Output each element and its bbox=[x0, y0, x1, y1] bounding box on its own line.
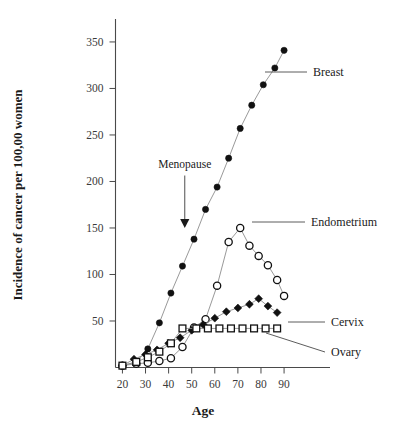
marker-ovary-46 bbox=[179, 325, 186, 332]
marker-breast-86 bbox=[272, 65, 278, 71]
marker-ovary-52 bbox=[193, 325, 200, 332]
leader-line-ovary bbox=[266, 333, 325, 352]
marker-endometrium-87 bbox=[274, 276, 281, 283]
marker-ovary-26 bbox=[133, 359, 140, 366]
marker-ovary-31 bbox=[144, 354, 151, 361]
annotation-arrow-head bbox=[180, 219, 189, 228]
marker-breast-76 bbox=[249, 102, 255, 108]
marker-breast-66 bbox=[226, 155, 232, 161]
marker-ovary-62 bbox=[216, 325, 223, 332]
marker-breast-46 bbox=[179, 263, 185, 269]
y-tick-label-350: 350 bbox=[86, 36, 104, 48]
y-tick-label-100: 100 bbox=[86, 268, 104, 280]
y-axis: 50100150200250300350 bbox=[86, 19, 115, 368]
series-label-endometrium: Endometrium bbox=[311, 215, 378, 229]
x-axis-title: Age bbox=[192, 403, 215, 418]
marker-ovary-67 bbox=[228, 325, 235, 332]
y-tick-label-150: 150 bbox=[86, 222, 104, 234]
marker-ovary-41 bbox=[168, 340, 175, 347]
marker-ovary-20 bbox=[119, 362, 126, 369]
marker-ovary-82 bbox=[262, 325, 269, 332]
x-tick-label-30: 30 bbox=[140, 378, 152, 390]
marker-ovary-57 bbox=[204, 325, 211, 332]
marker-endometrium-61 bbox=[214, 282, 221, 289]
y-axis-title: Incidence of cancer per 100,00 women bbox=[10, 89, 25, 301]
marker-cervix-87 bbox=[273, 309, 281, 317]
marker-cervix-70 bbox=[234, 304, 242, 312]
marker-ovary-36 bbox=[156, 348, 163, 355]
marker-endometrium-75 bbox=[246, 242, 253, 249]
x-tick-label-60: 60 bbox=[209, 378, 221, 390]
marker-endometrium-46 bbox=[179, 343, 186, 350]
series-container bbox=[119, 47, 288, 369]
x-axis: 2030405060708090 bbox=[116, 368, 331, 390]
series-label-ovary: Ovary bbox=[331, 345, 361, 359]
marker-breast-71 bbox=[237, 125, 243, 131]
marker-endometrium-71 bbox=[237, 224, 244, 231]
marker-breast-51 bbox=[191, 236, 197, 242]
marker-breast-81 bbox=[260, 82, 266, 88]
y-tick-label-200: 200 bbox=[86, 175, 104, 187]
x-tick-label-90: 90 bbox=[278, 378, 290, 390]
marker-endometrium-36 bbox=[156, 357, 163, 364]
marker-cervix-60 bbox=[211, 314, 219, 322]
marker-breast-56 bbox=[202, 206, 208, 212]
y-tick-label-250: 250 bbox=[86, 129, 104, 141]
marker-breast-36 bbox=[156, 320, 162, 326]
marker-breast-41 bbox=[168, 290, 174, 296]
marker-cervix-75 bbox=[246, 300, 254, 308]
marker-endometrium-41 bbox=[167, 355, 174, 362]
x-tick-label-50: 50 bbox=[186, 378, 198, 390]
x-tick-label-70: 70 bbox=[232, 378, 244, 390]
series-label-cervix: Cervix bbox=[331, 315, 364, 329]
x-tick-label-40: 40 bbox=[163, 378, 175, 390]
marker-endometrium-83 bbox=[264, 262, 271, 269]
marker-ovary-77 bbox=[251, 325, 258, 332]
marker-ovary-87 bbox=[274, 325, 281, 332]
series-ovary bbox=[119, 325, 281, 369]
marker-breast-90 bbox=[281, 47, 287, 53]
annotation-container: Menopause bbox=[158, 158, 211, 228]
x-tick-label-20: 20 bbox=[117, 378, 129, 390]
x-tick-label-80: 80 bbox=[255, 378, 267, 390]
marker-endometrium-79 bbox=[255, 252, 262, 259]
y-tick-label-300: 300 bbox=[86, 82, 104, 94]
chart-figure: 50100150200250300350 2030405060708090 Me… bbox=[0, 0, 398, 434]
marker-endometrium-66 bbox=[225, 238, 232, 245]
y-tick-label-50: 50 bbox=[92, 315, 104, 327]
incidence-line-chart: 50100150200250300350 2030405060708090 Me… bbox=[0, 0, 398, 434]
series-label-container: BreastEndometriumCervixOvary bbox=[252, 65, 378, 359]
marker-breast-61 bbox=[214, 184, 220, 190]
series-label-breast: Breast bbox=[313, 65, 344, 79]
marker-cervix-65 bbox=[222, 308, 230, 316]
marker-ovary-72 bbox=[239, 325, 246, 332]
annotation-label-menopause: Menopause bbox=[158, 158, 211, 171]
series-endometrium bbox=[119, 224, 288, 369]
marker-endometrium-90 bbox=[280, 292, 287, 299]
